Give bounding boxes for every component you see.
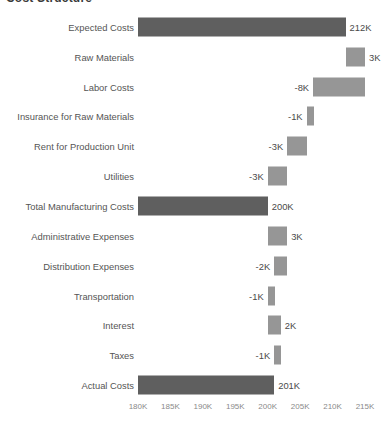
waterfall-bar[interactable] <box>274 256 287 275</box>
waterfall-row[interactable]: Raw Materials3K <box>0 42 382 72</box>
x-axis-tick: 205K <box>291 402 310 411</box>
value-label: -1K <box>0 290 264 301</box>
value-label: 3K <box>291 230 302 241</box>
value-label: 3K <box>369 51 380 62</box>
value-label: -1K <box>0 111 303 122</box>
category-label: Expected Costs <box>68 21 134 32</box>
waterfall-bar[interactable] <box>268 316 281 335</box>
waterfall-row[interactable]: Labor Costs-8K <box>0 72 382 102</box>
waterfall-row[interactable]: Rent for Production Unit-3K <box>0 131 382 161</box>
x-axis-tick: 195K <box>226 402 245 411</box>
waterfall-row[interactable]: Expected Costs212K <box>0 12 382 42</box>
waterfall-row[interactable]: Distribution Expenses-2K <box>0 251 382 281</box>
x-axis-tick: 180K <box>129 402 148 411</box>
waterfall-row[interactable]: Utilities-3K <box>0 161 382 191</box>
category-label: Total Manufacturing Costs <box>26 200 134 211</box>
category-label: Raw Materials <box>75 51 134 62</box>
x-axis-tick: 210K <box>323 402 342 411</box>
waterfall-plot-area: Expected Costs212KRaw Materials3KLabor C… <box>0 12 382 400</box>
value-label: -2K <box>0 260 270 271</box>
x-axis: 180K185K190K195K200K205K210K215K <box>0 402 382 418</box>
value-label: -3K <box>0 141 283 152</box>
value-label: -1K <box>0 350 270 361</box>
waterfall-row[interactable]: Total Manufacturing Costs200K <box>0 191 382 221</box>
value-label: 212K <box>350 21 372 32</box>
value-label: -8K <box>0 81 309 92</box>
x-axis-tick: 190K <box>194 402 213 411</box>
x-axis-tick: 200K <box>258 402 277 411</box>
waterfall-bar[interactable] <box>346 47 365 66</box>
category-label: Actual Costs <box>81 380 134 391</box>
waterfall-row[interactable]: Insurance for Raw Materials-1K <box>0 102 382 132</box>
waterfall-bar[interactable] <box>268 226 287 245</box>
category-label: Administrative Expenses <box>31 230 134 241</box>
x-axis-tick: 215K <box>356 402 375 411</box>
value-label: 2K <box>285 320 296 331</box>
category-label: Interest <box>103 320 134 331</box>
chart-title: Cost Structure <box>6 0 92 5</box>
waterfall-bar[interactable] <box>307 107 314 126</box>
x-axis-tick: 185K <box>161 402 180 411</box>
waterfall-bar[interactable] <box>287 137 306 156</box>
waterfall-bar[interactable] <box>268 167 287 186</box>
value-label: -3K <box>0 171 264 182</box>
value-label: 201K <box>278 380 300 391</box>
value-label: 200K <box>272 200 294 211</box>
waterfall-row[interactable]: Administrative Expenses3K <box>0 221 382 251</box>
waterfall-bar[interactable] <box>138 376 274 395</box>
waterfall-bar[interactable] <box>138 196 268 215</box>
waterfall-bar[interactable] <box>138 17 346 36</box>
waterfall-row[interactable]: Taxes-1K <box>0 340 382 370</box>
waterfall-row[interactable]: Transportation-1K <box>0 281 382 311</box>
waterfall-bar[interactable] <box>274 346 281 365</box>
waterfall-bar[interactable] <box>313 77 365 96</box>
waterfall-bar[interactable] <box>268 286 275 305</box>
waterfall-row[interactable]: Actual Costs201K <box>0 370 382 400</box>
waterfall-row[interactable]: Interest2K <box>0 310 382 340</box>
